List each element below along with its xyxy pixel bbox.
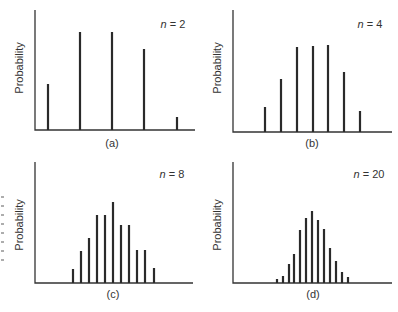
- y-axis-label: Probability: [13, 199, 25, 251]
- y-axis-label: Probability: [211, 199, 223, 251]
- panel-a: Probability n = 2 (a): [13, 10, 195, 149]
- n-annotation: n = 2: [161, 18, 186, 30]
- left-edge-artifact: [1, 197, 4, 260]
- binomial-distribution-figure: Probability n = 2 (a) Probability n = 4 …: [0, 0, 398, 312]
- panel-label: (d): [306, 288, 319, 300]
- panel-b: Probability n = 4 (b): [211, 10, 392, 149]
- panel-label: (a): [105, 137, 118, 149]
- n-annotation: n = 4: [358, 18, 383, 30]
- y-axis-label: Probability: [13, 42, 25, 94]
- n-annotation: n = 20: [354, 168, 385, 180]
- n-annotation: n = 8: [160, 168, 185, 180]
- panel-label: (c): [107, 288, 120, 300]
- y-axis-label: Probability: [211, 42, 223, 94]
- panel-d: Probability n = 20 (d): [211, 162, 392, 300]
- panel-c: Probability n = 8 (c): [13, 162, 193, 300]
- panel-label: (b): [305, 137, 318, 149]
